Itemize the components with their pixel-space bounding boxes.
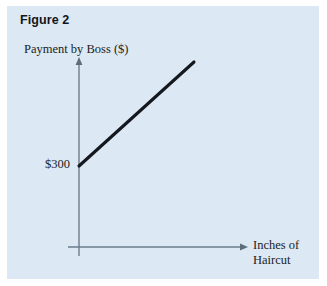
arrow-up-icon (76, 57, 83, 65)
data-series-line (79, 62, 194, 166)
payment-trend-line (79, 62, 194, 166)
figure-container: Figure 2 Payment by Boss ($) $300 Inches… (0, 0, 327, 286)
y-axis-group (76, 57, 83, 256)
x-axis-group (68, 244, 248, 251)
plot-area (0, 0, 327, 286)
arrow-right-icon (240, 244, 248, 251)
